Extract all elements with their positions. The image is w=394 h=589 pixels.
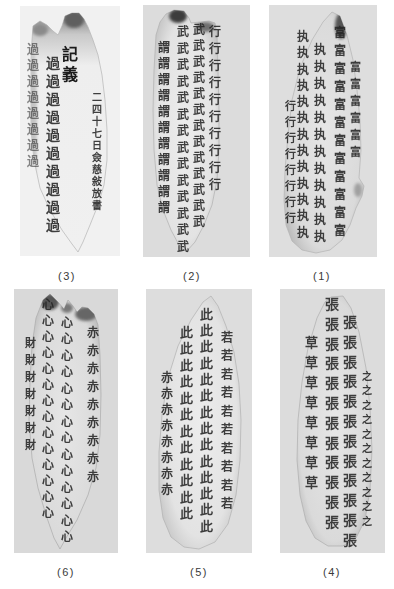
leaf-character: 之	[362, 442, 372, 457]
leaf-character: 此	[180, 341, 193, 358]
leaf-character: 心	[61, 331, 73, 348]
leaf-character: 心	[42, 313, 54, 329]
leaf-character: 赤	[87, 450, 99, 468]
leaf-character: 若	[221, 458, 233, 477]
leaf-character: 草	[305, 453, 318, 473]
leaf-character: 武	[193, 54, 205, 70]
leaf-character: 張	[325, 513, 339, 533]
leaf-character: 心	[42, 361, 54, 377]
leaf-character: 張	[325, 394, 339, 414]
leaf-character: 此	[200, 454, 213, 470]
leaf-character: 武	[177, 222, 189, 239]
leaf-character: 行	[209, 109, 221, 126]
leaf-character: 赤	[161, 466, 173, 482]
leaf-character: 心	[61, 480, 73, 497]
leaf-character: 行	[285, 163, 296, 179]
character-column: 草草草草草草草草	[305, 333, 318, 493]
leaf-character: 過	[46, 162, 60, 180]
leaf-character: 武	[177, 57, 189, 74]
leaf-character: 武	[177, 140, 189, 157]
leaf-character: 心	[61, 447, 73, 464]
leaf-character: 此	[180, 391, 193, 408]
leaf-character: 赤	[87, 360, 99, 378]
leaf-character: 行	[209, 58, 221, 75]
leaf-character: 過	[27, 74, 39, 90]
leaf-character: 赤	[161, 434, 173, 450]
leaf-character: 心	[61, 315, 73, 332]
panel-caption: (2)	[183, 270, 201, 282]
leaf-character: 执	[314, 127, 326, 144]
leaf-character: 赤	[161, 370, 173, 386]
leaf-character: 心	[61, 496, 73, 513]
character-column: 過過過過過過過過	[27, 42, 39, 170]
leaf-character: 若	[221, 329, 233, 348]
character-column: 過過過過過過過過過過	[46, 54, 60, 234]
leaf-character: 行	[209, 143, 221, 160]
leaf-character: 義	[62, 65, 78, 85]
leaf-character: 之	[362, 413, 372, 428]
leaf-character: 此	[200, 519, 213, 535]
leaf-panel-2: 謂謂謂謂謂謂謂謂謂謂謂 武武武武武武武武武武武武武武 武武武武武武武武武武武武武…	[143, 5, 250, 257]
leaf-character: 执	[297, 94, 309, 110]
leaf-character: 行	[209, 92, 221, 109]
leaf-character: 若	[221, 347, 233, 366]
leaf-character: 此	[200, 405, 213, 421]
leaf-character: 武	[193, 198, 205, 214]
leaf-character: 武	[193, 182, 205, 198]
character-column: 赤赤赤赤赤赤赤赤赤	[87, 324, 99, 486]
leaf-character: 心	[61, 529, 73, 546]
leaf-character: 心	[61, 430, 73, 447]
leaf-character: 此	[200, 470, 213, 486]
leaf-character: 赤	[87, 468, 99, 486]
leaf-character: 赤	[161, 418, 173, 434]
leaf-character: 执	[314, 178, 326, 195]
leaf-character: 富	[334, 186, 346, 204]
leaf-panel-4: 草草草草草草草草 張張張張張張張張張張張張 張張張張張張張張張張張張 之之之之之…	[280, 289, 385, 553]
leaf-character: 武	[193, 86, 205, 102]
leaf-character: 之	[362, 457, 372, 472]
leaf-character: 此	[200, 323, 213, 339]
leaf-panel-3: 過過過過過過過過 過過過過過過過過過過 記義 二四十七日僉慈敍放書	[20, 6, 120, 256]
leaf-character: 执	[297, 225, 309, 241]
leaf-character: 張	[343, 313, 357, 333]
leaf-character: 执	[297, 110, 309, 126]
leaf-character: 放	[92, 188, 102, 200]
leaf-character: 武	[177, 156, 189, 173]
leaf-character: 行	[285, 147, 296, 163]
character-column: 財財財財財財財	[25, 335, 36, 454]
leaf-character: 財	[25, 369, 36, 386]
leaf-character: 張	[325, 414, 339, 434]
leaf-character: 心	[42, 473, 54, 489]
leaf-character: 心	[42, 409, 54, 425]
leaf-character: 此	[180, 374, 193, 391]
leaf-character: 謂	[158, 168, 170, 184]
leaf-character: 富	[334, 132, 346, 150]
leaf-character: 張	[343, 432, 357, 452]
leaf-character: 財	[25, 403, 36, 420]
leaf-character: 执	[314, 195, 326, 212]
leaf-character: 富	[350, 76, 361, 93]
leaf-character: 武	[193, 102, 205, 118]
leaf-character: 富	[350, 59, 361, 76]
leaf-character: 赤	[161, 482, 173, 498]
leaf-character: 過	[46, 108, 60, 126]
leaf-character: 执	[297, 45, 309, 61]
leaf-character: 心	[42, 345, 54, 361]
leaf-character: 日	[92, 140, 102, 152]
leaf-character: 行	[285, 179, 296, 195]
leaf-character: 此	[200, 307, 213, 323]
leaf-character: 若	[221, 421, 233, 440]
leaf-character: 張	[343, 412, 357, 432]
leaf-character: 富	[350, 144, 361, 161]
leaf-character: 張	[343, 333, 357, 353]
leaf-character: 張	[325, 295, 339, 315]
leaf-character: 赤	[87, 432, 99, 450]
leaf-character: 行	[209, 126, 221, 143]
leaf-character: 行	[209, 75, 221, 92]
leaf-character: 行	[285, 99, 296, 115]
leaf-character: 武	[193, 118, 205, 134]
leaf-character: 执	[297, 159, 309, 175]
leaf-character: 心	[42, 505, 54, 521]
character-column: 富富富富富富富富富富富富	[334, 24, 346, 240]
leaf-character: 過	[46, 54, 60, 72]
